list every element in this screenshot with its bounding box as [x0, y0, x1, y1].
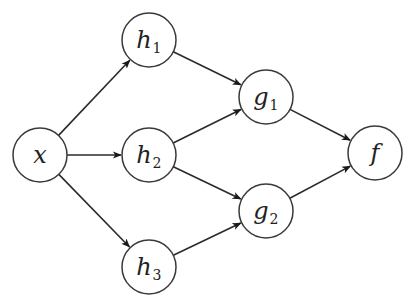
- node-label: g: [253, 83, 268, 111]
- node-h2: h2: [122, 128, 176, 182]
- node-label: x: [33, 141, 47, 169]
- node-label: h: [136, 253, 151, 281]
- node-label: h: [136, 26, 151, 54]
- node-h3: h3: [122, 240, 176, 294]
- edge-h1-to-g1: [173, 52, 241, 85]
- computation-graph: xh1h2h3g1g2f: [0, 0, 413, 308]
- node-label: g: [253, 197, 268, 225]
- edge-x-to-h1: [59, 60, 130, 135]
- node-label: h: [136, 141, 151, 169]
- edge-g1-to-f: [290, 109, 350, 140]
- edge-h2-to-g2: [173, 167, 240, 199]
- nodes-layer: xh1h2h3g1g2f: [13, 13, 402, 294]
- edge-h3-to-g2: [173, 223, 240, 255]
- node-subscript: 1: [153, 40, 162, 56]
- node-g1: g1: [239, 70, 293, 124]
- edge-x-to-h3: [59, 174, 130, 247]
- node-f: f: [348, 126, 402, 180]
- graph-canvas: xh1h2h3g1g2f: [0, 0, 413, 308]
- node-g2: g2: [239, 184, 293, 238]
- edges-layer: [59, 52, 351, 256]
- node-subscript: 2: [270, 211, 279, 227]
- node-subscript: 3: [153, 267, 162, 283]
- node-h1: h1: [122, 13, 176, 67]
- node-x: x: [13, 128, 67, 182]
- edge-g2-to-f: [290, 166, 350, 198]
- edge-h2-to-g1: [173, 109, 241, 143]
- node-subscript: 1: [270, 97, 279, 113]
- node-subscript: 2: [153, 155, 162, 171]
